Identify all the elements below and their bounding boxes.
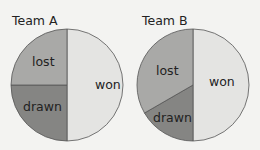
pie-charts: won lost drawn won lost drawn bbox=[0, 0, 260, 150]
team-b-lost-label: lost bbox=[156, 63, 179, 78]
team-a-lost-label: lost bbox=[32, 54, 55, 69]
team-b-won-label: won bbox=[209, 74, 235, 89]
team-b-drawn-label: drawn bbox=[153, 110, 192, 125]
team-a-drawn-label: drawn bbox=[23, 99, 62, 114]
team-a-won-label: won bbox=[95, 77, 121, 92]
